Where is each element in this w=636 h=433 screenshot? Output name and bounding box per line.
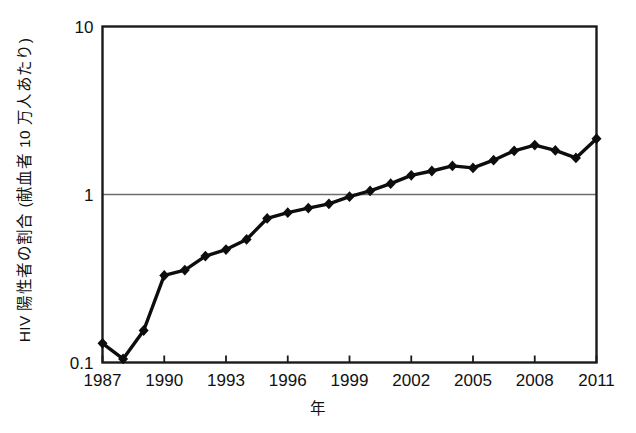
data-point-marker	[427, 166, 437, 177]
data-point-marker	[509, 145, 519, 156]
y-axis-tick-label: 10	[75, 18, 94, 37]
x-axis-tick-label: 2008	[516, 371, 554, 390]
chart-plot-area: 1010.1 198719901993199619992002200520082…	[0, 0, 636, 433]
x-axis-tick-label: 1993	[207, 371, 245, 390]
x-axis-tick-label: 2005	[454, 371, 492, 390]
data-point-marker	[468, 162, 478, 173]
data-point-marker	[283, 207, 293, 218]
y-axis-tick-labels: 1010.1	[70, 18, 94, 373]
x-axis-tick-label: 2011	[578, 371, 615, 390]
y-axis-tick-label: 1	[84, 186, 93, 205]
x-axis-tick-label: 2002	[392, 371, 430, 390]
data-point-marker	[447, 160, 457, 171]
x-axis-title: 年	[0, 396, 636, 418]
x-axis-title-text: 年	[310, 400, 326, 417]
data-point-marker	[159, 270, 169, 281]
x-axis-tick-label: 1996	[269, 371, 307, 390]
x-axis-tick-label: 1990	[145, 371, 183, 390]
chart-figure: HIV 陽性者の割合 (献血者 10 万人あたり) 1010.1 1987199…	[0, 0, 636, 433]
data-point-marker	[550, 145, 560, 156]
data-point-marker	[221, 244, 231, 255]
data-point-marker	[303, 203, 313, 214]
data-point-marker	[530, 140, 540, 151]
data-point-marker	[406, 170, 416, 181]
data-point-marker	[324, 198, 334, 209]
data-point-marker	[386, 178, 396, 189]
data-point-markers	[98, 133, 602, 364]
x-axis-tick-labels: 198719901993199619992002200520082011	[84, 371, 615, 390]
data-series-line	[103, 139, 597, 359]
x-axis-tick-label: 1999	[331, 371, 369, 390]
data-point-marker	[345, 191, 355, 202]
x-axis-tick-label: 1987	[84, 371, 122, 390]
data-point-marker	[489, 155, 499, 166]
